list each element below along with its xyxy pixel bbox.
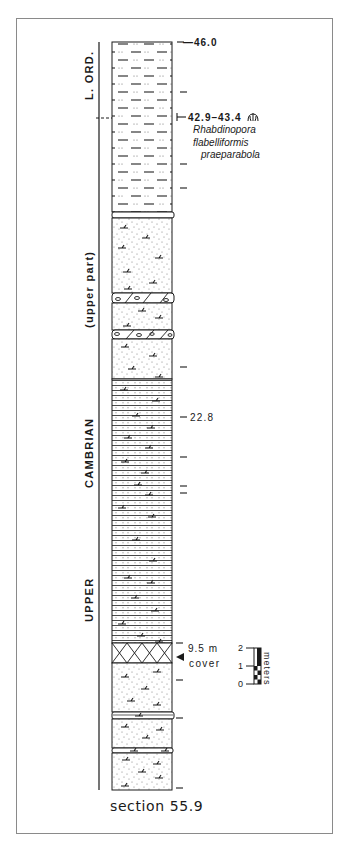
interval-cover xyxy=(112,643,172,663)
column-body xyxy=(112,42,174,790)
cover-arrow-icon xyxy=(176,653,184,661)
age-label-upper-part: (upper part) xyxy=(83,251,95,328)
graptolite-icon xyxy=(248,113,258,121)
age-bar xyxy=(96,42,112,790)
interval-laminated-sandstone xyxy=(112,379,172,643)
figure-caption: section 55.9 xyxy=(110,798,203,814)
cover-thickness-label: 9.5 m xyxy=(188,643,218,654)
cover-label: cover xyxy=(189,658,220,669)
interval-sandstone xyxy=(112,663,172,712)
interval-sandstone xyxy=(112,303,172,330)
scale-bar: 2 1 0 meters xyxy=(238,643,272,689)
scale-tick-1: 1 xyxy=(238,661,243,671)
age-label-lower-ordovician: L. ORD. xyxy=(83,51,95,100)
interval-sandstone xyxy=(112,339,172,379)
stratigraphic-column: —46.0 42.9–43.4 22.8 9.5 m cover Rhabdin… xyxy=(0,0,346,848)
age-label-upper: UPPER xyxy=(83,578,95,622)
interval-sandstone xyxy=(112,218,172,293)
depth-label-mid: 22.8 xyxy=(190,412,214,423)
depth-label-top: —46.0 xyxy=(183,37,217,48)
fossil-species: flabelliformis xyxy=(193,137,249,148)
interval-sandstone xyxy=(112,719,172,748)
interval-shale xyxy=(112,42,172,212)
interval-thin-bed xyxy=(112,212,174,218)
interval-conglomerate xyxy=(112,330,174,339)
depth-label-fossil-range: 42.9–43.4 xyxy=(188,112,242,123)
scale-unit-label: meters xyxy=(262,652,272,686)
height-ticks xyxy=(176,42,187,788)
scale-tick-0: 0 xyxy=(238,679,243,689)
scale-tick-2: 2 xyxy=(238,643,243,653)
fossil-genus: Rhabdinopora xyxy=(193,124,256,135)
age-label-cambrian: CAMBRIAN xyxy=(83,418,95,488)
fossil-subspecies: praeparabola xyxy=(200,149,260,160)
